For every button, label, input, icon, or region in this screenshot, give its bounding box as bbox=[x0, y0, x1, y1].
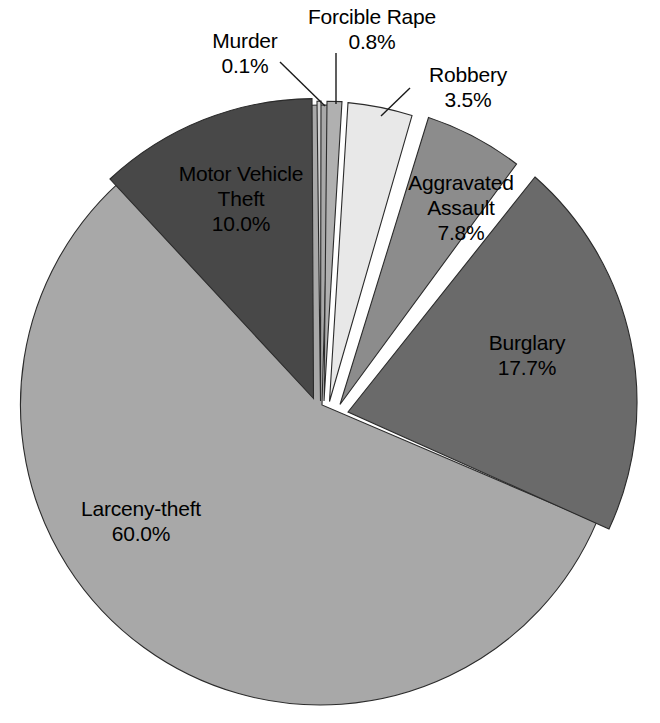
slice-label-aggravated-assault: Aggravated Assault 7.8% bbox=[386, 170, 536, 245]
slice-label-aggravated-assault-name1: Aggravated bbox=[408, 171, 513, 194]
slice-label-murder-name: Murder bbox=[212, 29, 277, 52]
slice-label-burglary-value: 17.7% bbox=[452, 355, 602, 380]
pie-slices bbox=[20, 99, 637, 705]
slice-label-larceny-theft: Larceny-theft 60.0% bbox=[36, 496, 246, 546]
slice-label-motor-vehicle-theft-name1: Motor Vehicle bbox=[179, 162, 304, 185]
slice-label-motor-vehicle-theft: Motor Vehicle Theft 10.0% bbox=[156, 161, 326, 236]
slice-label-aggravated-assault-value: 7.8% bbox=[386, 220, 536, 245]
slice-label-robbery: Robbery 3.5% bbox=[398, 62, 538, 112]
slice-label-robbery-value: 3.5% bbox=[398, 87, 538, 112]
slice-label-aggravated-assault-name2: Assault bbox=[386, 195, 536, 220]
slice-label-burglary-name: Burglary bbox=[489, 331, 566, 354]
slice-label-murder: Murder 0.1% bbox=[175, 28, 315, 78]
slice-label-larceny-theft-name: Larceny-theft bbox=[81, 497, 201, 520]
slice-label-robbery-name: Robbery bbox=[429, 63, 507, 86]
pie-chart-figure: Forcible Rape 0.8% Murder 0.1% Robbery 3… bbox=[0, 0, 660, 723]
slice-label-motor-vehicle-theft-name2: Theft bbox=[156, 186, 326, 211]
slice-label-motor-vehicle-theft-value: 10.0% bbox=[156, 211, 326, 236]
slice-label-forcible-rape-name: Forcible Rape bbox=[308, 5, 436, 28]
slice-label-larceny-theft-value: 60.0% bbox=[36, 521, 246, 546]
slice-label-burglary: Burglary 17.7% bbox=[452, 330, 602, 380]
slice-label-murder-value: 0.1% bbox=[175, 53, 315, 78]
